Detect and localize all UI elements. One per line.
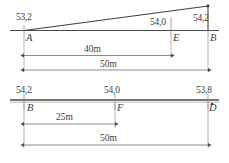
lower-point-label-B: B	[27, 103, 33, 114]
lower-elevation-label-B: 54,2	[16, 86, 32, 96]
upper-elevation-label-A: 53,2	[16, 13, 32, 23]
upper-endpoint-dot-B	[207, 5, 210, 8]
upper-point-label-B: B	[210, 33, 216, 44]
upper-dimension-label-50m: 50m	[100, 60, 117, 70]
lower-point-label-F: F	[117, 103, 123, 114]
lower-dimension-label-25m: 25m	[56, 113, 73, 123]
lower-elevation-label-F: 54,0	[104, 86, 120, 96]
lower-dimension-label-50m: 50m	[100, 134, 117, 144]
upper-sloped-sight-line	[24, 6, 208, 31]
leveling-diagram-figure: 53,2 A 54,0 E 54,2 B 40m 50m 54,2 B 54,0…	[0, 0, 229, 163]
lower-point-label-D: D	[209, 103, 217, 114]
lower-elevation-label-D: 53,8	[196, 86, 212, 96]
upper-elevation-label-E: 54,0	[150, 18, 166, 28]
upper-point-label-A: A	[26, 33, 32, 44]
upper-elevation-label-B: 54,2	[193, 14, 209, 24]
upper-dimension-label-40m: 40m	[84, 45, 101, 55]
upper-point-label-E: E	[173, 33, 179, 44]
